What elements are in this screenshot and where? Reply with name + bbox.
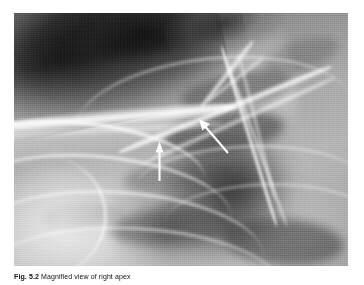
film-grain-texture	[14, 13, 348, 266]
figure-caption-label: Fig. 5.2	[14, 273, 39, 280]
figure-caption: Fig. 5.2 Magnified view of right apex	[14, 272, 350, 285]
figure-caption-text: Magnified view of right apex	[41, 273, 131, 280]
radiograph-image	[14, 13, 348, 266]
figure-container: Fig. 5.2 Magnified view of right apex	[0, 0, 364, 285]
